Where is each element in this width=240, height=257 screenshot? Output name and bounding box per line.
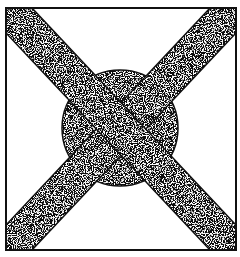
- geometric-illustration: [0, 0, 240, 257]
